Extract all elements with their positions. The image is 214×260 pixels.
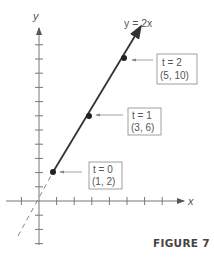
svg-text:t = 1: t = 1: [132, 110, 152, 121]
svg-text:t = 2: t = 2: [162, 57, 182, 68]
line-segment: [53, 26, 141, 172]
svg-text:(3, 6): (3, 6): [131, 122, 154, 133]
svg-text:(5, 10): (5, 10): [160, 70, 189, 81]
y-axis-label: y: [32, 10, 40, 22]
svg-text:(1, 2): (1, 2): [92, 176, 115, 187]
figure-caption: FIGURE 7: [153, 237, 210, 249]
point-t0: [50, 169, 56, 175]
label-box-t0: t = 0 (1, 2): [89, 162, 122, 189]
label-box-t1: t = 1 (3, 6): [128, 108, 161, 135]
x-axis: [6, 197, 184, 205]
label-box-t2: t = 2 (5, 10): [157, 54, 197, 84]
dashed-line-extension: [18, 172, 53, 236]
x-axis-label: x: [187, 195, 194, 207]
svg-text:t = 0: t = 0: [93, 164, 113, 175]
point-t2: [121, 55, 127, 61]
y-axis: [35, 28, 43, 245]
parametric-line-chart: x y y = 2x t = 0 (1, 2) t = 1 (3, 6) t =…: [0, 0, 214, 260]
point-t1: [86, 113, 92, 119]
line-equation-label: y = 2x: [124, 17, 153, 29]
